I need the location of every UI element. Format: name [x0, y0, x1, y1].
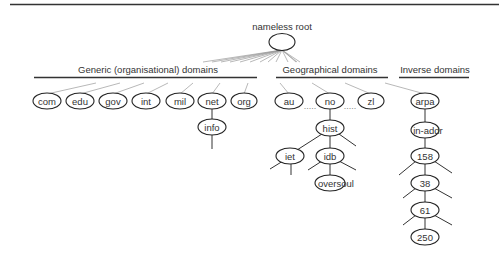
- tld-edges: [47, 83, 425, 94]
- edge-61-right: [434, 215, 452, 225]
- ellipsis-au-no: .....: [304, 101, 317, 111]
- ellipsis-no-zl: .....: [344, 101, 357, 111]
- svg-text:net: net: [205, 96, 219, 107]
- svg-text:arpa: arpa: [415, 96, 435, 107]
- svg-text:158: 158: [417, 151, 433, 162]
- svg-text:info: info: [204, 122, 219, 133]
- edge-idb-right: [339, 161, 356, 170]
- svg-text:iet: iet: [285, 151, 295, 162]
- root-node: [269, 34, 295, 51]
- svg-text:int: int: [141, 96, 151, 107]
- svg-text:com: com: [38, 96, 56, 107]
- edge-38-right: [434, 188, 452, 198]
- svg-text:in-addr: in-addr: [413, 125, 443, 136]
- node-com: com: [33, 93, 61, 109]
- edge-158-right: [434, 161, 452, 173]
- svg-text:250: 250: [417, 232, 433, 243]
- node-mil: mil: [166, 93, 194, 109]
- edge-61-left: [403, 215, 416, 225]
- node-info: info: [198, 119, 226, 135]
- node-arpa: arpa: [411, 93, 439, 109]
- svg-text:idb: idb: [324, 151, 337, 162]
- svg-text:edu: edu: [72, 96, 88, 107]
- svg-text:61: 61: [420, 205, 431, 216]
- node-int: int: [132, 93, 160, 109]
- node-idb: idb: [316, 148, 344, 164]
- svg-text:au: au: [284, 96, 295, 107]
- edge-38-left: [403, 188, 416, 198]
- node-no: no: [316, 93, 344, 109]
- node-in-addr: in-addr: [411, 122, 443, 138]
- svg-text:38: 38: [420, 178, 431, 189]
- svg-text:oversoul: oversoul: [318, 178, 354, 189]
- svg-text:gov: gov: [105, 96, 121, 107]
- node-250: 250: [411, 229, 439, 245]
- svg-text:org: org: [237, 96, 251, 107]
- svg-text:no: no: [325, 96, 336, 107]
- section-label-geographical: Geographical domains: [282, 64, 377, 75]
- node-org: org: [231, 93, 257, 109]
- node-38: 38: [411, 175, 439, 191]
- edge-hist-iet: [297, 134, 322, 150]
- node-oversoul: oversoul: [315, 175, 354, 191]
- node-61: 61: [411, 202, 439, 218]
- section-label-inverse: Inverse domains: [400, 64, 470, 75]
- root-label: nameless root: [252, 21, 312, 32]
- svg-text:zl: zl: [368, 96, 375, 107]
- edge-158-left: [399, 161, 416, 175]
- svg-text:mil: mil: [174, 96, 186, 107]
- node-zl: zl: [358, 93, 384, 109]
- dns-tree-diagram: nameless root Generic (organisational) d…: [0, 0, 499, 259]
- section-label-generic: Generic (organisational) domains: [78, 64, 218, 75]
- node-gov: gov: [99, 93, 127, 109]
- node-au: au: [275, 93, 303, 109]
- node-edu: edu: [66, 93, 94, 109]
- edge-hist-right: [339, 134, 356, 146]
- node-158: 158: [411, 148, 439, 164]
- svg-text:hist: hist: [323, 123, 338, 134]
- edge-idb-left: [308, 161, 322, 170]
- node-iet: iet: [276, 148, 304, 164]
- node-hist: hist: [316, 120, 344, 136]
- node-net: net: [198, 93, 226, 109]
- root-fan-edges: [203, 50, 300, 62]
